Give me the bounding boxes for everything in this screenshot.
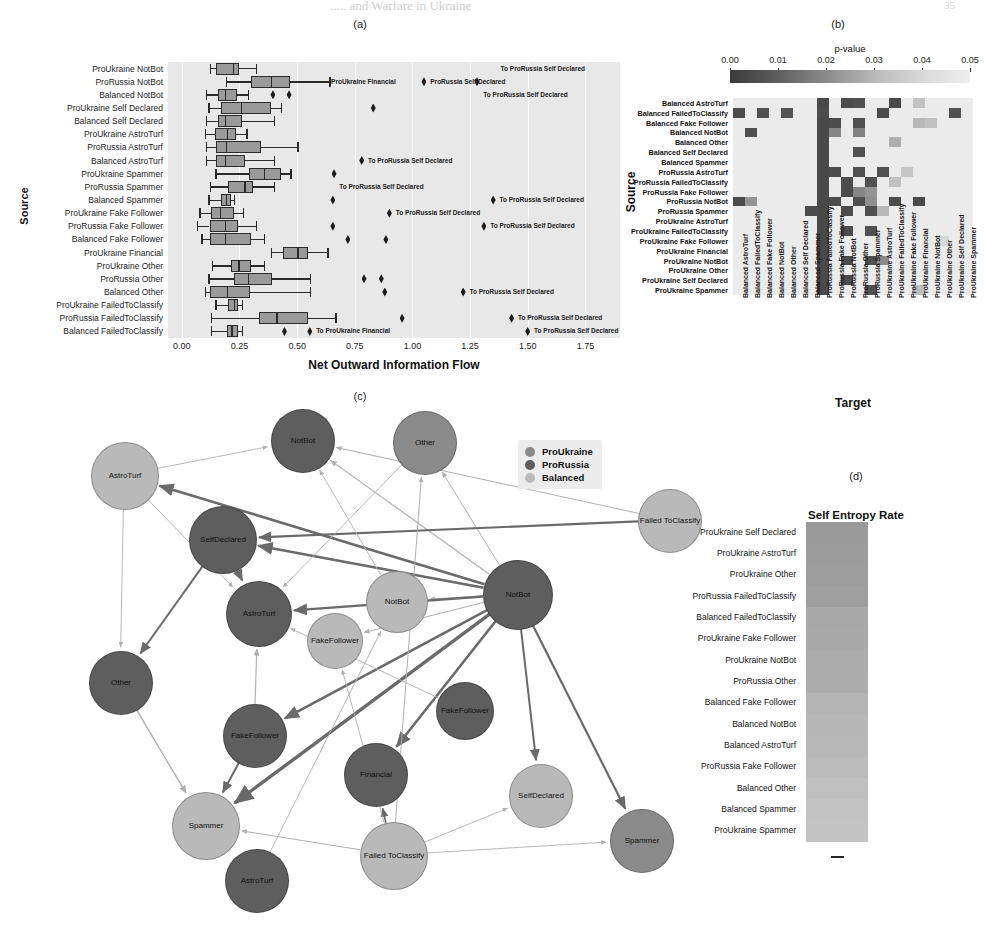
panel-d-label: ProRussia Fake Follower: [686, 761, 796, 771]
panel-b-xtick: ProRussia NotBot: [850, 238, 857, 298]
network-node-astroturf[interactable]: AstroTurf: [91, 442, 159, 510]
heatmap-cell: [733, 177, 745, 187]
heatmap-cell: [865, 167, 877, 177]
heatmap-cell: [865, 177, 877, 187]
heatmap-cell: [853, 167, 865, 177]
heatmap-cell: [757, 98, 769, 108]
heatmap-cell: [841, 108, 853, 118]
heatmap-cell: [865, 197, 877, 207]
heatmap-cell: [781, 147, 793, 157]
panel-d-cell: [806, 821, 868, 842]
colorbar-tick: 0.05: [952, 55, 987, 65]
panel-d-cell: [806, 586, 868, 607]
heatmap-cell: [889, 147, 901, 157]
panel-d-label: ProRussia Other: [686, 676, 796, 686]
heatmap-cell: [769, 177, 781, 187]
heatmap-cell: [937, 108, 949, 118]
network-node-notbot[interactable]: NotBot: [271, 409, 335, 473]
panel-b-xtick: ProUkraine Financial: [922, 228, 929, 298]
heatmap-cell: [865, 128, 877, 138]
network-node-astroturf[interactable]: AstroTurf: [225, 849, 289, 913]
heatmap-cell: [925, 128, 937, 138]
heatmap-cell: [949, 137, 961, 147]
panel-d-cell: [806, 671, 868, 692]
heatmap-cell: [949, 108, 961, 118]
panel-d-title: Self Entropy Rate: [796, 509, 916, 521]
heatmap-cell: [877, 206, 889, 216]
heatmap-cell: [769, 206, 781, 216]
heatmap-cell: [841, 98, 853, 108]
heatmap-cell: [841, 157, 853, 167]
panel-d-cell: [806, 607, 868, 628]
heatmap-cell: [961, 128, 973, 138]
heatmap-cell: [925, 177, 937, 187]
heatmap-cell: [937, 98, 949, 108]
heatmap-cell: [781, 108, 793, 118]
panel-d-cell: [806, 735, 868, 756]
heatmap-cell: [757, 137, 769, 147]
panel-b-xtick: ProRussia Spammer: [874, 230, 881, 298]
network-node-financial[interactable]: Financial: [344, 743, 408, 807]
network-node-spammer[interactable]: Spammer: [610, 809, 674, 873]
colorbar-tick-mark: [970, 68, 971, 72]
heatmap-cell: [853, 206, 865, 216]
heatmap-cell: [961, 157, 973, 167]
network-node-fake-follower[interactable]: FakeFollower: [436, 682, 494, 740]
panel-d-label: Balanced Fake Follower: [686, 697, 796, 707]
network-node-other[interactable]: Other: [393, 411, 457, 475]
heatmap-cell: [769, 147, 781, 157]
panel-b-xtick: ProRussia Fake Follower: [838, 215, 845, 298]
heatmap-cell: [889, 157, 901, 167]
heatmap-cell: [901, 108, 913, 118]
panel-d-label: ProUkraine Self Declared: [686, 527, 796, 537]
heatmap-cell: [889, 187, 901, 197]
network-node-notbot[interactable]: NotBot: [366, 571, 428, 633]
panel-d-label: ProUkraine Fake Follower: [686, 633, 796, 643]
heatmap-cell: [781, 177, 793, 187]
panel-b-xtick: Balanced NotBot: [778, 242, 785, 298]
network-node-self-declared[interactable]: SelfDeclared: [189, 506, 257, 574]
heatmap-cell: [781, 98, 793, 108]
heatmap-cell: [865, 98, 877, 108]
network-node-other[interactable]: Other: [89, 651, 153, 715]
heatmap-cell: [745, 118, 757, 128]
heatmap-cell: [817, 128, 829, 138]
heatmap-cell: [793, 118, 805, 128]
heatmap-cell: [865, 137, 877, 147]
heatmap-cell: [901, 167, 913, 177]
heatmap-cell: [937, 167, 949, 177]
heatmap-cell: [913, 137, 925, 147]
heatmap-cell: [925, 206, 937, 216]
network-node-fake-follower[interactable]: FakeFollower: [223, 704, 287, 768]
legend-label: Balanced: [542, 472, 584, 483]
heatmap-cell: [805, 137, 817, 147]
colorbar-tick: 0.02: [808, 55, 844, 65]
network-node-spammer[interactable]: Spammer: [172, 792, 240, 860]
panel-d-heatmap: [806, 522, 868, 842]
heatmap-cell: [793, 157, 805, 167]
network-node-notbot[interactable]: NotBot: [483, 560, 553, 630]
heatmap-cell: [745, 187, 757, 197]
heatmap-cell: [805, 177, 817, 187]
heatmap-cell: [829, 157, 841, 167]
heatmap-cell: [937, 206, 949, 216]
heatmap-cell: [817, 147, 829, 157]
network-node-astroturf[interactable]: AstroTurf: [226, 581, 292, 647]
heatmap-cell: [889, 128, 901, 138]
heatmap-cell: [781, 157, 793, 167]
network-node-fake-follower[interactable]: FakeFollower: [307, 613, 363, 669]
panel-d-cell: [806, 714, 868, 735]
network-node-self-declared[interactable]: SelfDeclared: [509, 764, 573, 828]
heatmap-cell: [805, 206, 817, 216]
heatmap-cell: [961, 108, 973, 118]
colorbar-tick: 0.00: [712, 55, 748, 65]
heatmap-cell: [961, 147, 973, 157]
heatmap-cell: [949, 187, 961, 197]
heatmap-cell: [745, 137, 757, 147]
heatmap-cell: [913, 197, 925, 207]
panel-d-label: Balanced Other: [686, 783, 796, 793]
network-node-failed-to-classify[interactable]: Failed ToClassify: [360, 822, 428, 890]
heatmap-cell: [733, 167, 745, 177]
heatmap-cell: [853, 216, 865, 226]
heatmap-cell: [757, 187, 769, 197]
